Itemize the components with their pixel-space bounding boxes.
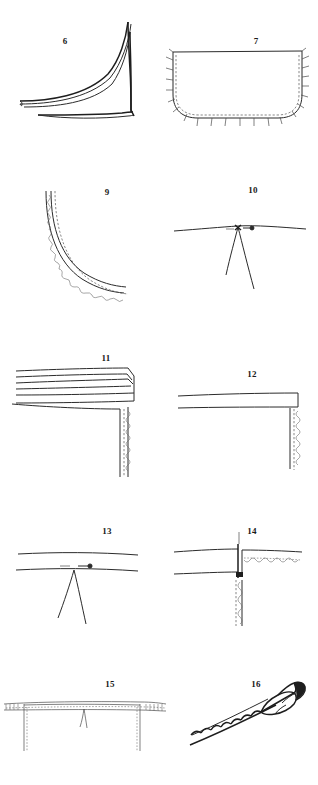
figure-9: 9 <box>0 157 158 327</box>
figure-13: 13 <box>0 492 158 647</box>
figure-6: 6 <box>0 0 158 157</box>
figure-11: 11 <box>0 327 158 492</box>
figure-14: 14 <box>160 492 318 647</box>
figure-7: 7 <box>160 0 318 157</box>
scalloped-edge-down <box>238 582 242 624</box>
scalloped-edge-vertical <box>296 411 300 465</box>
figure-10-artwork <box>160 157 318 327</box>
scalloped-edge-diagonal <box>191 711 261 735</box>
figure-14-artwork <box>160 492 318 647</box>
figure-6-artwork <box>0 0 158 157</box>
figure-7-artwork <box>160 0 318 157</box>
figure-15-artwork <box>0 647 175 785</box>
figure-12-artwork <box>160 327 318 492</box>
figure-10: 10 <box>160 157 318 327</box>
figure-16-artwork <box>178 647 318 785</box>
stitch-marks-left <box>166 57 187 121</box>
figure-13-artwork <box>0 492 158 647</box>
pin-mark-right <box>243 226 254 230</box>
stitch-marks-right <box>292 56 309 117</box>
illustration-plate: 6 7 <box>0 0 318 785</box>
pin-mark-right <box>78 564 92 568</box>
figure-9-artwork <box>0 157 158 327</box>
figure-11-artwork <box>0 327 158 492</box>
figure-15: 15 <box>0 647 175 785</box>
scalloped-edge <box>48 195 124 302</box>
figure-16: 16 <box>178 647 318 785</box>
figure-12: 12 <box>160 327 318 492</box>
